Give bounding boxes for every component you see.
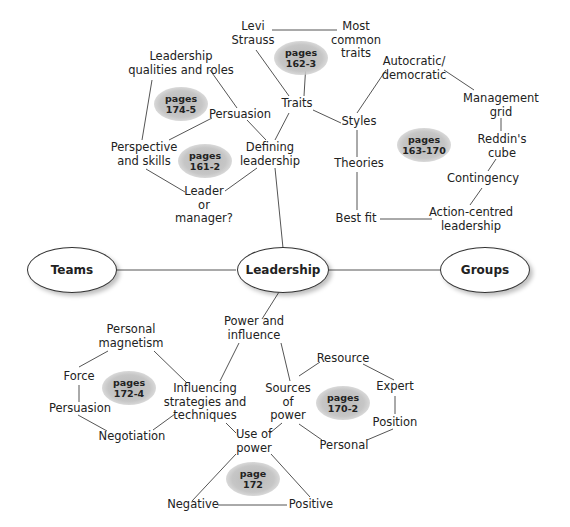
- node-traits: Traits: [282, 97, 313, 111]
- node-reddins-cube: Reddin's cube: [478, 133, 527, 160]
- node-groups[interactable]: Groups: [440, 247, 530, 293]
- node-teams[interactable]: Teams: [27, 247, 117, 293]
- node-leadership[interactable]: Leadership: [237, 247, 329, 293]
- node-persuasion-lower: Persuasion: [49, 402, 111, 416]
- node-most-common-traits: Most common traits: [331, 20, 381, 61]
- node-leadership-qualities: Leadership qualities and roles: [128, 50, 234, 77]
- node-leader-or-manager: Leader or manager?: [175, 185, 233, 226]
- page-reference-badge-172: page 172: [226, 462, 280, 496]
- page-reference-badge-174-5: pages 174-5: [154, 87, 208, 121]
- node-theories: Theories: [334, 157, 383, 171]
- node-use-of-power: Use of power: [236, 428, 272, 455]
- node-persuasion-upper: Persuasion: [209, 108, 271, 122]
- node-best-fit: Best fit: [336, 212, 377, 226]
- node-action-centred-leadership: Action-centred leadership: [429, 206, 513, 233]
- node-power-and-influence: Power and influence: [224, 315, 284, 342]
- node-personal-magnetism: Personal magnetism: [99, 323, 164, 350]
- node-negative: Negative: [167, 498, 219, 512]
- node-teams-label: Teams: [51, 263, 93, 277]
- page-reference-badge-162-3: pages 162-3: [274, 41, 328, 75]
- node-perspective-skills: Perspective and skills: [111, 141, 178, 168]
- node-defining-leadership: Defining leadership: [240, 141, 300, 168]
- page-reference-badge-163-170: pages 163-170: [397, 128, 451, 162]
- node-influencing-strategies: Influencing strategies and techniques: [164, 382, 247, 423]
- page-reference-badge-170-2: pages 170-2: [316, 386, 370, 420]
- page-reference-badge-172-4: pages 172-4: [102, 371, 156, 405]
- node-leadership-label: Leadership: [246, 263, 321, 277]
- node-position: Position: [373, 416, 418, 430]
- node-autocratic-democratic: Autocratic/ democratic: [382, 55, 447, 82]
- node-negotiation: Negotiation: [99, 430, 166, 444]
- node-positive: Positive: [289, 498, 333, 512]
- node-groups-label: Groups: [461, 263, 509, 277]
- node-styles: Styles: [342, 115, 377, 129]
- node-expert: Expert: [376, 380, 414, 394]
- node-contingency: Contingency: [447, 172, 519, 186]
- node-management-grid: Management grid: [463, 92, 539, 119]
- node-force: Force: [63, 370, 94, 384]
- node-sources-of-power: Sources of power: [265, 382, 311, 423]
- node-resource: Resource: [317, 352, 370, 366]
- page-reference-badge-161-2: pages 161-2: [178, 144, 232, 178]
- node-personal: Personal: [320, 439, 369, 453]
- node-levi-strauss: Levi Strauss: [232, 20, 275, 47]
